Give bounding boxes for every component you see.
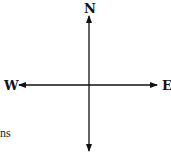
compass-arrows [0,0,171,153]
north-label: N [84,2,96,15]
text-fragment: ns [0,126,11,141]
east-label: E [162,79,171,92]
west-label: W [4,79,19,92]
